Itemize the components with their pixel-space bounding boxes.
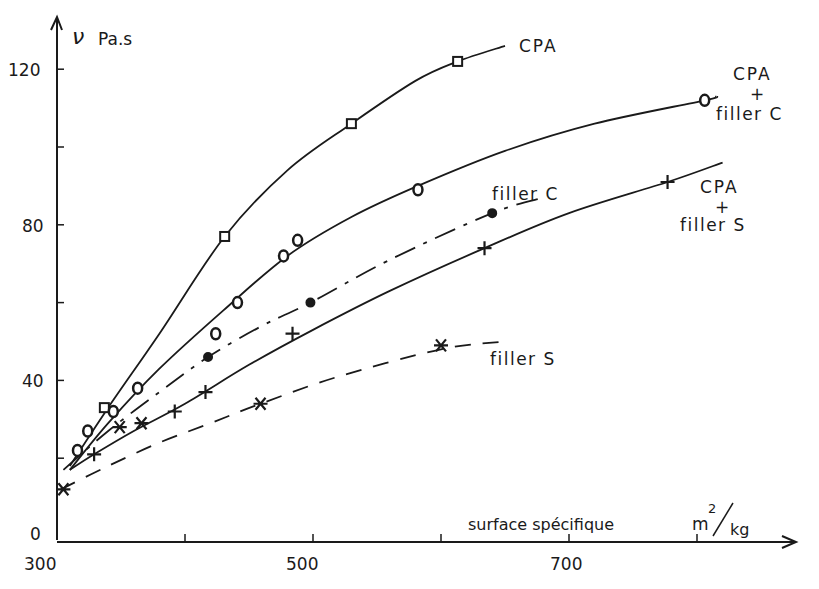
square-marker-icon [220, 232, 229, 241]
x-tick-label-700: 700 [550, 554, 582, 574]
square-marker-icon [347, 119, 356, 128]
plus-marker-icon [661, 175, 675, 189]
curve-filler-c [63, 198, 543, 470]
plus-marker-icon [87, 447, 101, 461]
dot-marker-icon [306, 299, 314, 307]
y-symbol: ν [72, 24, 84, 49]
circle-marker-icon [700, 95, 709, 106]
x-tick-label-300: 300 [24, 554, 56, 574]
circle-marker-icon [211, 328, 220, 339]
dot-marker-icon [204, 353, 212, 361]
asterisk-marker-icon [254, 398, 268, 410]
viscosity-chart: ν Pa.s 120 80 40 0 300 500 700 surface s… [0, 0, 819, 589]
label-filler-c: filler C [492, 184, 559, 204]
circle-marker-icon [83, 425, 92, 436]
circle-marker-icon [133, 383, 142, 394]
label-filler-s: filler S [490, 349, 556, 369]
y-tick-label-0: 0 [30, 524, 41, 544]
x-unit-exponent: 2 [708, 501, 716, 516]
circle-marker-icon [109, 406, 118, 417]
curve-cpa-filler-s [70, 163, 723, 470]
label-cpa-filler-c-line2: + [750, 84, 764, 104]
y-unit: Pa.s [98, 29, 132, 49]
circle-marker-icon [413, 184, 422, 195]
y-tick-label-80: 80 [22, 216, 44, 236]
label-cpa-filler-s-line2: + [715, 197, 729, 217]
square-marker-icon [453, 57, 462, 66]
asterisk-marker-icon [56, 483, 70, 495]
axis-ticks [57, 69, 697, 542]
y-tick-label-40: 40 [22, 371, 44, 391]
x-unit-numerator: m [692, 514, 709, 534]
label-cpa-filler-s-line1: CPA [700, 177, 739, 197]
x-axis-label: surface spécifique [468, 515, 614, 534]
x-tick-label-500: 500 [286, 554, 318, 574]
label-cpa-filler-c-line3: filler C [716, 104, 783, 124]
square-marker-icon [100, 403, 109, 412]
y-tick-label-120: 120 [8, 60, 40, 80]
series-markers [56, 57, 709, 495]
label-cpa: CPA [519, 36, 558, 56]
plus-marker-icon [478, 241, 492, 255]
dot-marker-icon [488, 209, 496, 217]
curve-filler-s [61, 342, 505, 490]
circle-marker-icon [293, 235, 302, 246]
circle-marker-icon [233, 297, 242, 308]
plus-marker-icon [198, 385, 212, 399]
series-curves [61, 46, 723, 489]
circle-marker-icon [73, 445, 82, 456]
label-cpa-filler-c-line1: CPA [733, 64, 772, 84]
asterisk-marker-icon [113, 421, 127, 433]
label-cpa-filler-s-line3: filler S [680, 215, 746, 235]
circle-marker-icon [279, 250, 288, 261]
axes [51, 17, 796, 548]
x-unit-denominator: kg [730, 520, 749, 539]
